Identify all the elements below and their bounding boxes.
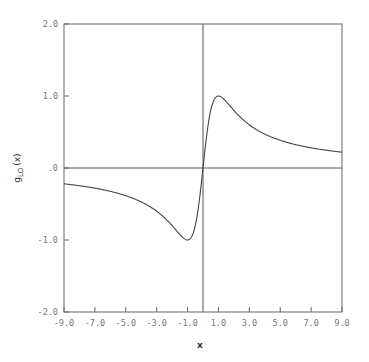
x-tick-label: 9.0: [334, 318, 349, 328]
x-tick-label: -5.0: [116, 318, 136, 328]
y-tick-label: 1.0: [43, 91, 58, 101]
y-tick-label: 2.0: [43, 19, 58, 29]
x-tick-label: -9.0: [54, 318, 74, 328]
y-tick-label: -2.0: [38, 307, 58, 317]
x-tick-label: 1.0: [211, 318, 226, 328]
y-axis-label-suffix: (x): [12, 153, 22, 165]
x-tick-label: -1.0: [177, 318, 197, 328]
y-axis-label: gLO(x): [12, 153, 25, 182]
x-tick-label: 5.0: [273, 318, 288, 328]
y-tick-label: .0: [48, 163, 58, 173]
x-tick-labels: -9.0-7.0-5.0-3.0-1.01.03.05.07.09.0: [54, 318, 350, 328]
y-axis-label-sub: LO: [17, 167, 25, 177]
x-axis-label: x: [197, 340, 203, 350]
chart: -9.0-7.0-5.0-3.0-1.01.03.05.07.09.0 2.01…: [0, 0, 369, 362]
x-tick-label: -3.0: [146, 318, 166, 328]
y-tick-label: -1.0: [38, 235, 58, 245]
x-tick-label: -7.0: [85, 318, 105, 328]
x-tick-label: 3.0: [242, 318, 257, 328]
y-tick-labels: 2.01.0.0-1.0-2.0: [38, 19, 58, 317]
x-tick-label: 7.0: [303, 318, 318, 328]
